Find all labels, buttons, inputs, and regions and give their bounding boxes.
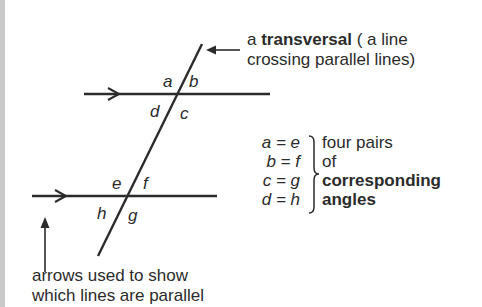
transversal-note: a transversal ( a line crossing parallel… bbox=[247, 30, 415, 70]
angle-label-f: f bbox=[143, 175, 148, 192]
brace-icon bbox=[309, 136, 319, 213]
angle-label-d: d bbox=[150, 103, 159, 120]
angle-label-c: c bbox=[180, 105, 189, 122]
transversal-note-line2: crossing parallel lines) bbox=[247, 50, 415, 70]
angle-label-g: g bbox=[128, 207, 137, 224]
equality-desc: angles bbox=[322, 190, 376, 210]
equality-lhs: c = g bbox=[240, 171, 300, 191]
transversal-note-suffix: ( a line bbox=[352, 30, 408, 49]
equality-desc: of bbox=[322, 152, 336, 172]
angle-label-h: h bbox=[97, 205, 106, 222]
parallel-note: arrows used to show which lines are para… bbox=[32, 266, 204, 306]
parallel-note-line2: which lines are parallel bbox=[32, 286, 204, 306]
transversal-line bbox=[98, 44, 202, 256]
equality-desc: corresponding bbox=[322, 171, 441, 191]
equality-desc: four pairs bbox=[322, 133, 393, 153]
transversal-note-prefix: a bbox=[247, 30, 261, 49]
parallel-note-line1: arrows used to show bbox=[32, 266, 204, 286]
angle-label-b: b bbox=[189, 73, 198, 90]
pointer-up-icon bbox=[41, 217, 50, 272]
transversal-note-term: transversal bbox=[261, 30, 352, 49]
equality-lhs: d = h bbox=[240, 190, 300, 210]
equality-lhs: b = f bbox=[240, 152, 300, 172]
angle-label-a: a bbox=[163, 73, 172, 90]
pointer-left-icon bbox=[206, 46, 240, 55]
equality-lhs: a = e bbox=[240, 133, 300, 153]
angle-label-e: e bbox=[112, 175, 121, 192]
